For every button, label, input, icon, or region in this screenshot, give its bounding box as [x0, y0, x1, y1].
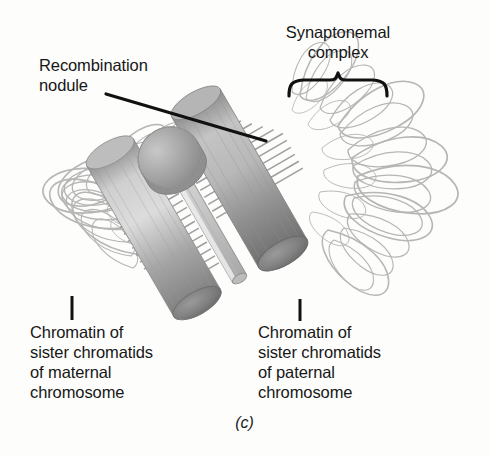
label-maternal-chromatin: Chromatin of sister chromatids of matern… [30, 322, 153, 402]
label-synaptonemal-complex: Synaptonemal complex [263, 22, 413, 62]
label-paternal-chromatin: Chromatin of sister chromatids of patern… [258, 322, 381, 402]
synaptonemal-complex-core [80, 63, 341, 328]
figure-caption: (c) [0, 414, 489, 432]
figure-container: Recombination nodule Synaptonemal comple… [0, 0, 489, 456]
chromatin-loops-paternal [283, 22, 461, 306]
label-recombination-nodule: Recombination nodule [39, 55, 148, 95]
